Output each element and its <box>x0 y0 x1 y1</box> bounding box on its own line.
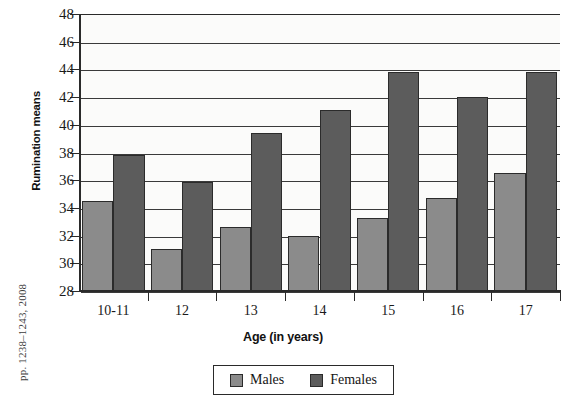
bar-males-13 <box>220 227 251 291</box>
x-tick-mark <box>491 290 492 301</box>
x-tick-mark <box>285 290 286 301</box>
bars-layer <box>79 14 560 291</box>
y-tick-label: 32 <box>14 227 74 244</box>
y-tick-label: 28 <box>14 283 74 300</box>
y-axis: 2830323436384042444648 <box>0 0 74 405</box>
gridline <box>81 292 560 293</box>
bar-males-10-11 <box>82 201 113 291</box>
bar-females-16 <box>457 97 488 291</box>
bar-males-17 <box>494 173 525 291</box>
bar-females-12 <box>182 182 213 291</box>
y-tick-label: 46 <box>14 33 74 50</box>
x-tick-mark <box>354 290 355 301</box>
y-tick-label: 44 <box>14 61 74 78</box>
x-tick-mark <box>560 290 561 301</box>
y-tick-label: 40 <box>14 116 74 133</box>
y-tick-label: 34 <box>14 199 74 216</box>
legend-entry-males[interactable]: Males <box>230 372 284 388</box>
bar-females-15 <box>388 72 419 291</box>
y-tick-label: 30 <box>14 255 74 272</box>
bar-females-17 <box>526 72 557 291</box>
bar-males-16 <box>426 198 457 291</box>
legend-entry-females[interactable]: Females <box>310 372 377 388</box>
chart-legend: MalesFemales <box>213 365 394 395</box>
x-tick-mark <box>423 290 424 301</box>
legend-label: Males <box>250 372 284 388</box>
y-tick-label: 42 <box>14 89 74 106</box>
x-tick-mark <box>216 290 217 301</box>
bar-females-13 <box>251 133 282 291</box>
bar-males-14 <box>288 236 319 291</box>
bar-females-10-11 <box>113 155 144 291</box>
x-axis-baseline <box>79 290 560 292</box>
y-tick-label: 38 <box>14 144 74 161</box>
y-tick-label: 36 <box>14 172 74 189</box>
bar-males-15 <box>357 218 388 291</box>
legend-swatch-icon-females <box>310 374 323 387</box>
x-axis-title: Age (in years) <box>0 330 566 344</box>
legend-label: Females <box>330 372 377 388</box>
y-tick-label: 48 <box>14 6 74 23</box>
legend-swatch-icon-males <box>230 374 243 387</box>
x-tick-label-17: 17 <box>486 303 566 319</box>
bar-males-12 <box>151 249 182 291</box>
x-tick-mark <box>148 290 149 301</box>
bar-females-14 <box>320 110 351 291</box>
